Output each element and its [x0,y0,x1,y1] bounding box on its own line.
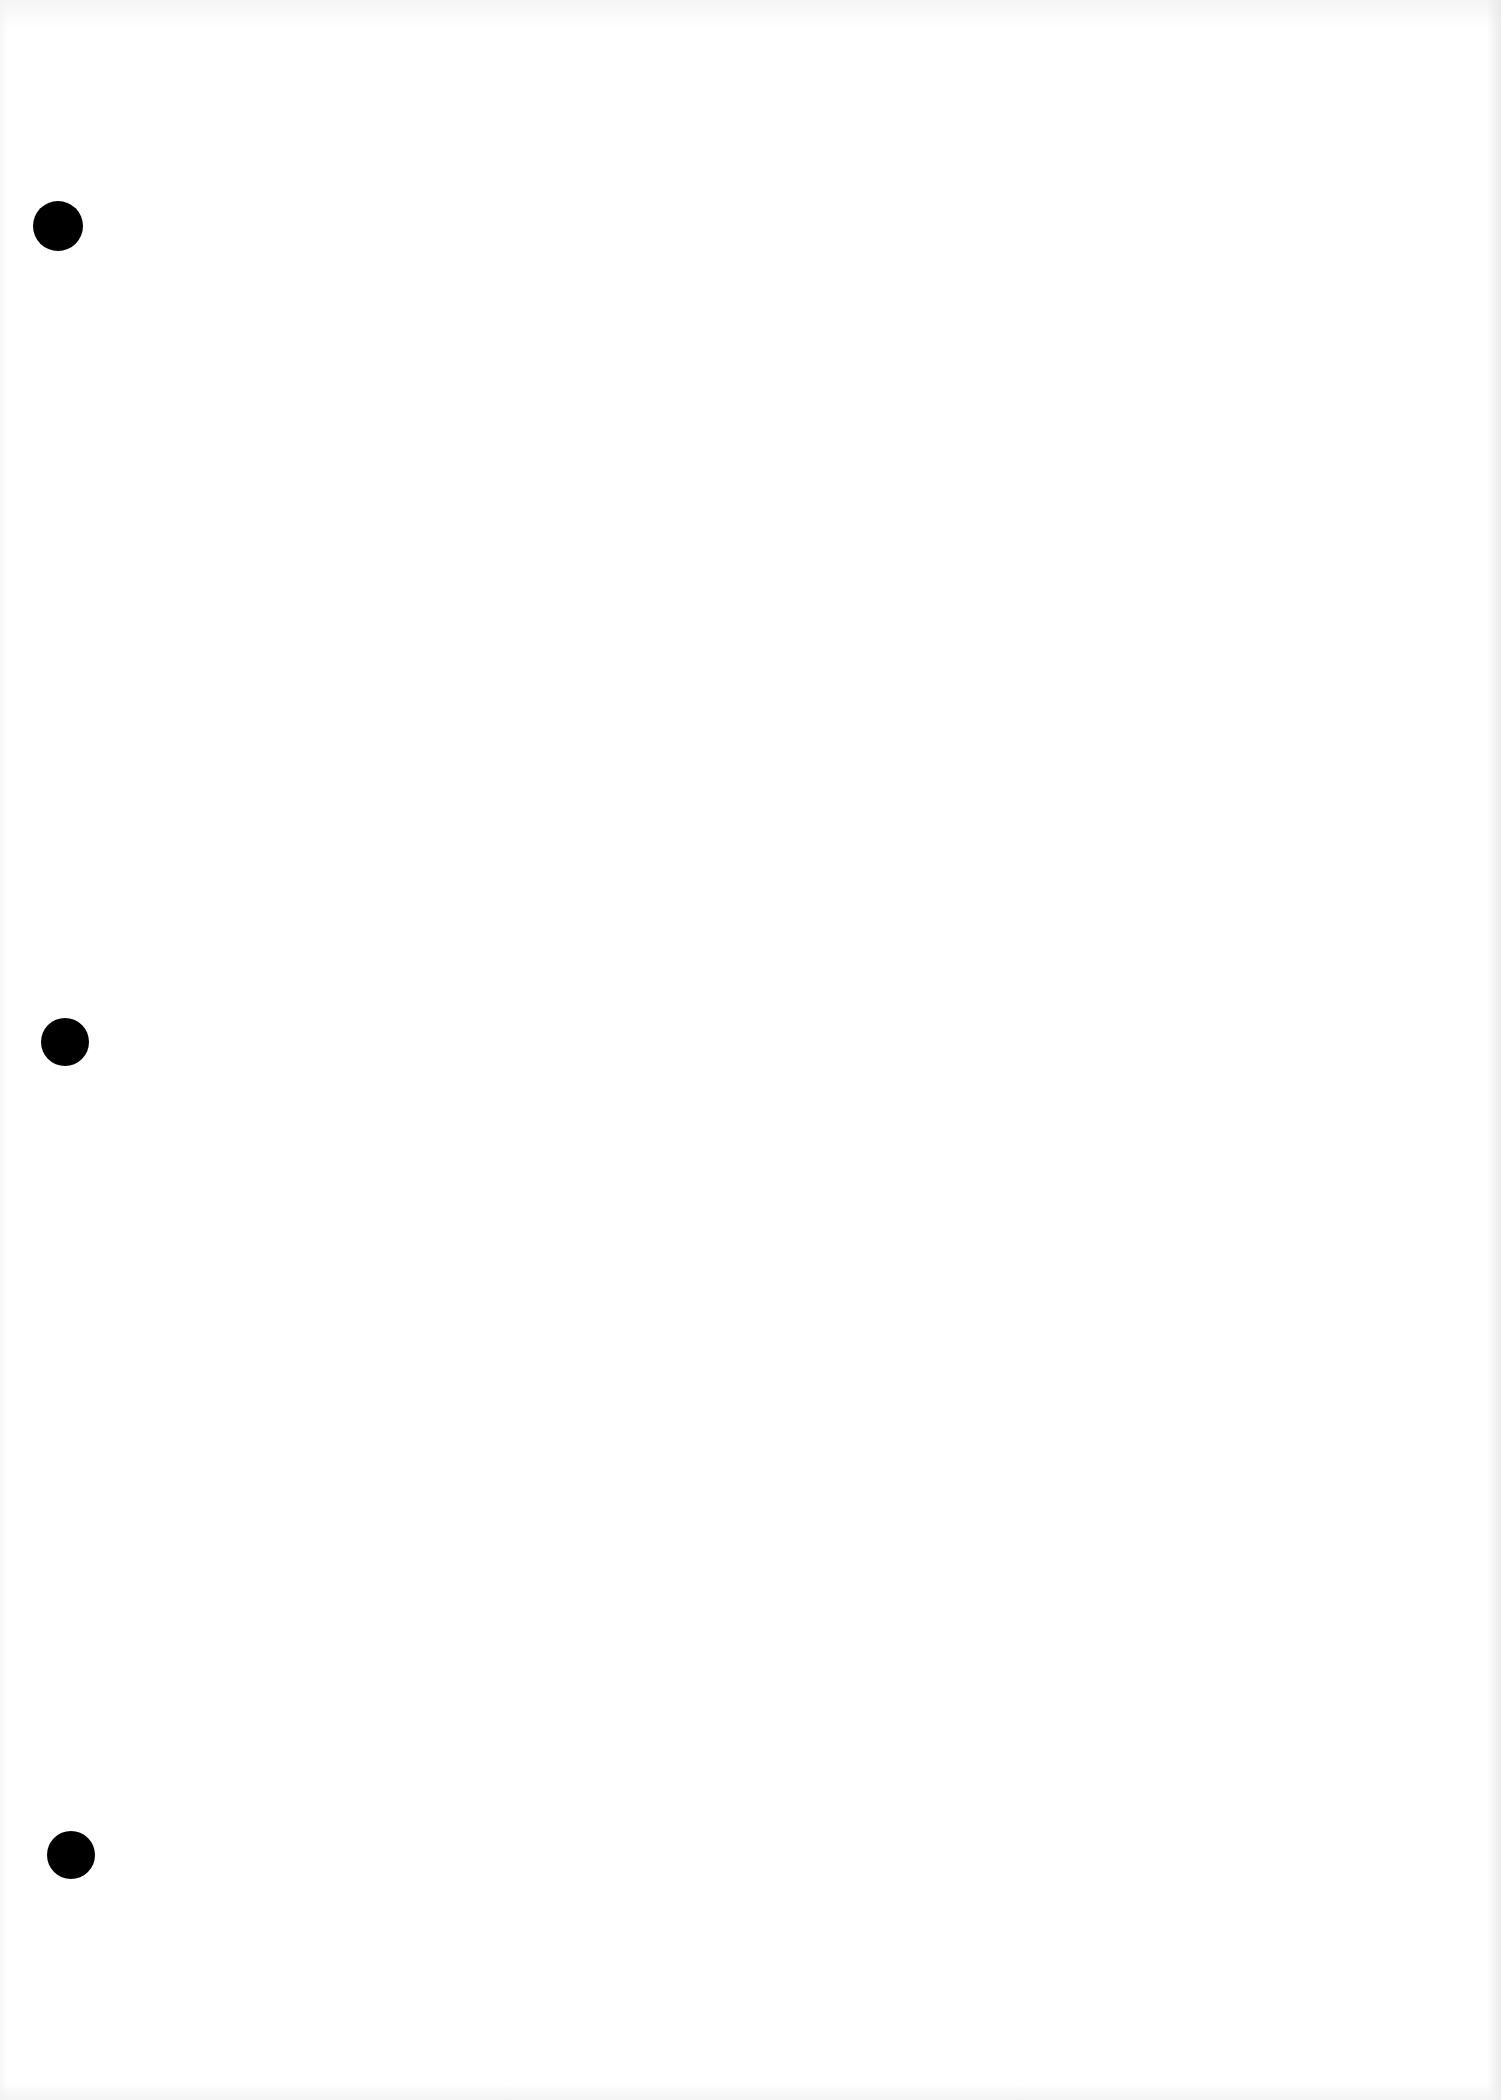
left-page-edge [0,0,8,2100]
top-edge-bleed-through [0,0,1501,28]
right-page-edge-shadow [1487,0,1501,2100]
punch-hole-middle [41,1018,89,1066]
punch-hole-bottom [47,1831,95,1879]
punch-hole-top [33,201,83,251]
scanned-page [0,0,1501,2100]
bottom-page-edge [0,2084,1501,2100]
